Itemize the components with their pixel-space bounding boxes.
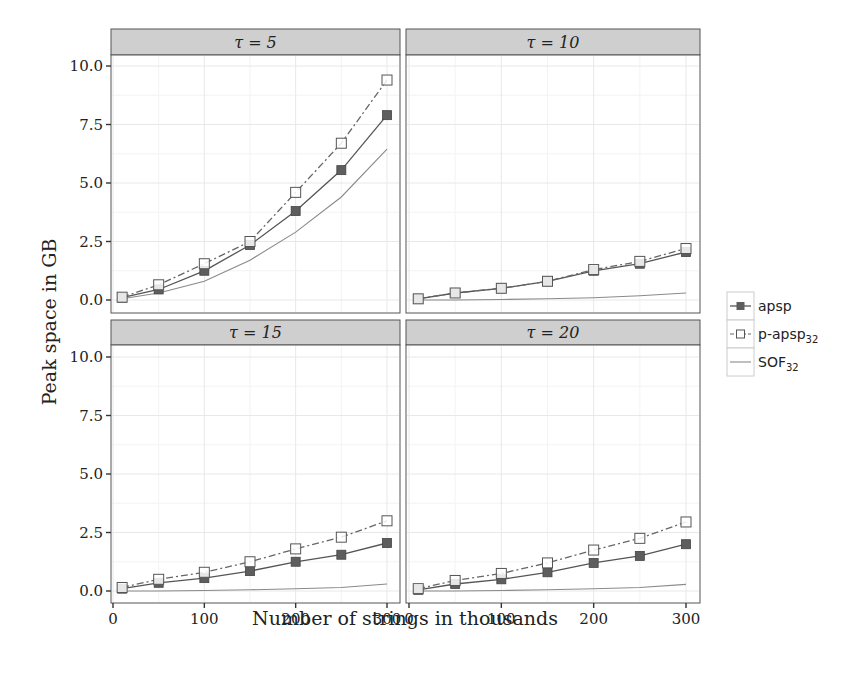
filled-square-marker (589, 558, 598, 567)
open-square-marker (199, 259, 209, 269)
x-axis-title: Number of strings in thousands (252, 607, 558, 629)
legend-label: p-apsp32 (758, 326, 818, 345)
open-square-marker (382, 75, 392, 85)
open-square-marker (245, 557, 255, 567)
facet-panel: τ = 15 (111, 320, 400, 603)
facet-strip-label: τ = 20 (527, 323, 580, 342)
filled-square-marker (246, 567, 255, 576)
x-tick-label: 100 (190, 610, 219, 628)
x-tick-label: 300 (672, 610, 701, 628)
legend-item-p-apsp: p-apsp32 (727, 320, 818, 348)
open-square-marker (543, 558, 553, 568)
plot-area (406, 55, 700, 313)
filled-square-marker (543, 568, 552, 577)
open-square-marker (336, 138, 346, 148)
faceted-line-chart: τ = 5τ = 10τ = 15τ = 20 0.02.55.07.510.0… (0, 0, 864, 691)
open-square-marker (117, 292, 127, 302)
filled-square-marker (291, 557, 300, 566)
legend-item-apsp: apsp (727, 292, 792, 320)
open-square-marker (291, 187, 301, 197)
open-square-marker (117, 582, 127, 592)
facet-panels: τ = 5τ = 10τ = 15τ = 20 (111, 29, 700, 603)
open-square-marker (635, 533, 645, 543)
open-square-marker (681, 517, 691, 527)
y-tick-label: 7.5 (79, 407, 103, 425)
open-square-marker (245, 237, 255, 247)
y-tick-label: 10.0 (70, 348, 103, 366)
facet-panel: τ = 10 (406, 29, 700, 313)
y-tick-label: 5.0 (79, 465, 103, 483)
facet-strip-label: τ = 15 (229, 323, 282, 342)
filled-square-marker (383, 539, 392, 548)
open-square-marker (450, 288, 460, 298)
legend: apspp-apsp32SOF32 (727, 292, 818, 376)
y-tick-label: 2.5 (79, 233, 103, 251)
open-square-marker (413, 294, 423, 304)
open-square-marker (496, 568, 506, 578)
filled-square-marker (635, 551, 644, 560)
filled-square-marker (291, 207, 300, 216)
open-square-marker (199, 567, 209, 577)
x-tick-label: 0 (108, 610, 118, 628)
open-square-marker (635, 256, 645, 266)
filled-square-marker (337, 166, 346, 175)
plot-area (111, 55, 400, 313)
legend-label: apsp (758, 298, 792, 314)
y-tick-label: 2.5 (79, 524, 103, 542)
facet-strip-label: τ = 5 (234, 33, 277, 52)
filled-square-marker (682, 540, 691, 549)
open-square-marker (291, 544, 301, 554)
facet-strip-label: τ = 10 (527, 33, 580, 52)
x-tick-label: 200 (579, 610, 608, 628)
y-axis-title: Peak space in GB (38, 239, 60, 406)
open-square-marker (154, 280, 164, 290)
open-square-marker (382, 516, 392, 526)
y-tick-label: 7.5 (79, 116, 103, 134)
filled-square-marker (383, 111, 392, 120)
open-square-marker (154, 574, 164, 584)
facet-panel: τ = 5 (111, 29, 400, 313)
open-square-marker (496, 283, 506, 293)
filled-square-marker (337, 550, 346, 559)
y-tick-label: 10.0 (70, 57, 103, 75)
open-square-marker (543, 276, 553, 286)
filled-square-icon (737, 302, 745, 310)
y-tick-label: 0.0 (79, 582, 103, 600)
legend-item-sof: SOF32 (727, 348, 799, 376)
y-tick-label: 5.0 (79, 174, 103, 192)
facet-panel: τ = 20 (406, 320, 700, 603)
open-square-marker (336, 532, 346, 542)
y-tick-label: 0.0 (79, 291, 103, 309)
legend-label: SOF32 (758, 354, 799, 373)
open-square-marker (589, 545, 599, 555)
open-square-marker (450, 575, 460, 585)
open-square-icon (737, 330, 745, 338)
open-square-marker (589, 265, 599, 275)
open-square-marker (681, 244, 691, 254)
open-square-marker (413, 584, 423, 594)
